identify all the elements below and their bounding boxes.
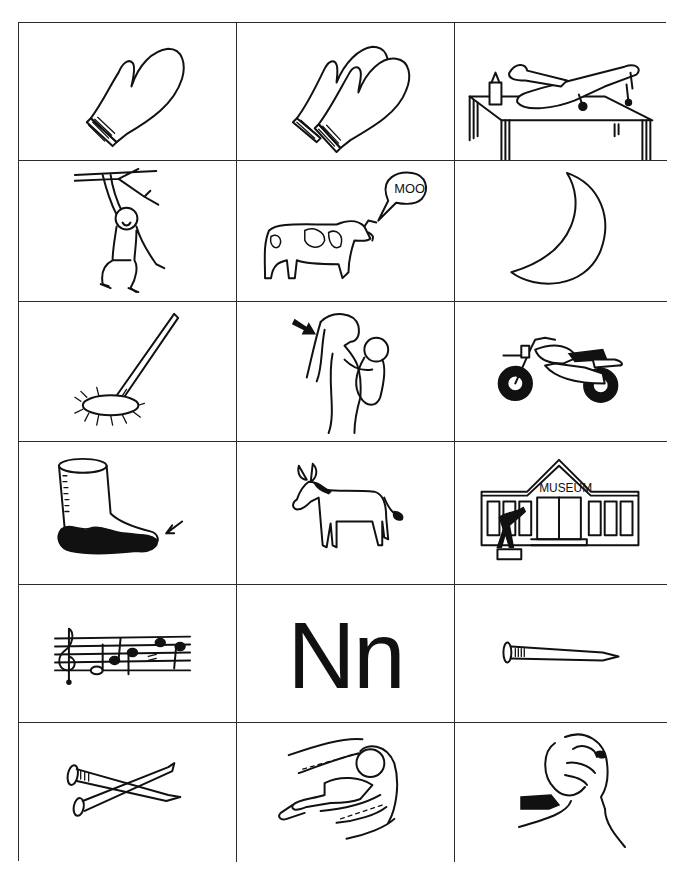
cell-music <box>19 585 237 723</box>
monkey-icon <box>19 161 236 301</box>
cell-mitten <box>19 23 237 161</box>
model-airplane-icon <box>455 23 667 160</box>
mop-icon <box>19 302 236 441</box>
cell-motorcycle <box>455 302 667 442</box>
cell-museum: MUSEUM <box>455 442 667 585</box>
cell-mittens <box>237 23 455 161</box>
nail-icon <box>455 585 667 722</box>
cell-mule <box>237 442 455 585</box>
cell-letter-nn: Nn <box>237 585 455 723</box>
picture-card-grid: MOO <box>18 22 666 861</box>
mule-icon <box>237 442 454 584</box>
mitten-icon <box>19 23 236 160</box>
cell-nail <box>455 585 667 723</box>
cell-cow: MOO <box>237 161 455 302</box>
museum-icon: MUSEUM <box>455 442 667 584</box>
mud-boot-icon <box>19 442 236 584</box>
cell-monkey <box>19 161 237 302</box>
letter-nn: Nn <box>287 609 403 703</box>
cell-model-airplane <box>455 23 667 161</box>
nap-icon <box>237 723 454 862</box>
cell-mud-boot <box>19 442 237 585</box>
cell-mop <box>19 302 237 442</box>
cell-mother <box>237 302 455 442</box>
neck-icon <box>455 723 667 862</box>
moon-icon <box>455 161 667 301</box>
nails-icon <box>19 723 236 862</box>
music-notes-icon <box>19 585 236 722</box>
cell-nails <box>19 723 237 862</box>
cell-nap <box>237 723 455 862</box>
speech-bubble-text: MOO <box>394 181 425 196</box>
mittens-icon <box>237 23 454 160</box>
mother-icon <box>237 302 454 441</box>
cell-neck <box>455 723 667 862</box>
museum-sign-text: MUSEUM <box>539 481 592 495</box>
cow-icon: MOO <box>237 161 454 301</box>
motorcycle-icon <box>455 302 667 441</box>
cell-moon <box>455 161 667 302</box>
